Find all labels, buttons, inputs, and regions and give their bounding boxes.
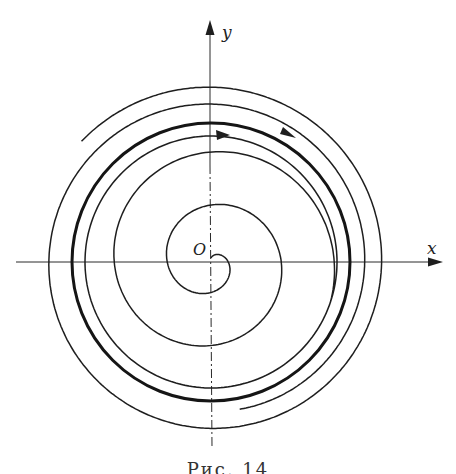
- origin-label: O: [193, 240, 206, 259]
- y-axis-lower-dashdot: [210, 165, 212, 448]
- y-axis-arrow-icon: [206, 20, 215, 35]
- outer-spiral-trajectory: [49, 87, 382, 428]
- x-axis-arrow-icon: [428, 258, 443, 267]
- y-axis-label: y: [221, 22, 232, 42]
- x-axis-label: x: [427, 238, 437, 258]
- phase-portrait-diagram: y x O: [0, 0, 456, 474]
- figure-caption: Рис. 14: [0, 455, 456, 474]
- inner-direction-arrow-icon: [216, 130, 230, 140]
